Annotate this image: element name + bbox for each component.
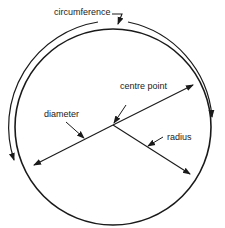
radius-pointer [148,137,163,146]
diameter-line [34,125,113,165]
circumference-arrow-right [128,22,212,117]
circumference-label: circumference [54,8,111,17]
diameter-label: diameter [44,110,79,119]
radius-label: radius [167,133,192,142]
circumference-pointer-arrow [112,14,122,24]
circle-outline [15,29,211,225]
diameter-line-upper [113,85,193,125]
diameter-pointer [66,122,84,138]
centre-point-label: centre point [120,82,167,91]
circle-diagram [0,0,225,228]
centre-point-pointer [114,105,126,123]
